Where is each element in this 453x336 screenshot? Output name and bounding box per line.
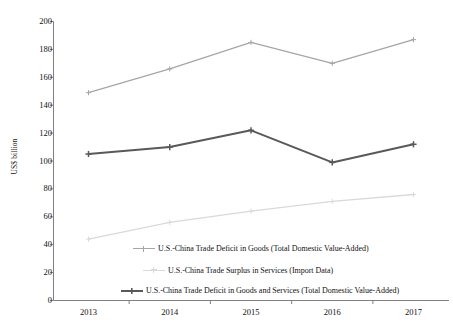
legend-swatch-icon xyxy=(133,244,155,253)
y-axis-tick-label: 140 xyxy=(26,101,52,110)
data-point-marker xyxy=(411,192,416,197)
data-point-marker xyxy=(248,209,253,214)
data-point-marker xyxy=(86,90,91,95)
data-point-marker xyxy=(85,151,91,157)
data-point-marker xyxy=(248,40,253,45)
legend-label: U.S.-China Trade Surplus in Services (Im… xyxy=(168,266,333,275)
data-point-marker xyxy=(410,141,416,147)
data-point-marker xyxy=(329,159,335,165)
data-point-marker xyxy=(330,199,335,204)
legend-label: U.S.-China Trade Deficit in Goods (Total… xyxy=(158,244,369,253)
legend-swatch-icon xyxy=(143,266,165,275)
y-axis-tick-label: 180 xyxy=(26,45,52,54)
data-point-marker xyxy=(167,66,172,71)
y-axis-tick-label: 80 xyxy=(26,184,52,193)
line-chart: US$ billion 200180160140120100806040200 … xyxy=(0,0,453,336)
y-axis-title: US$ billion xyxy=(10,122,19,192)
axis-ticks xyxy=(50,22,453,305)
y-axis-tick-label: 40 xyxy=(26,240,52,249)
series-line xyxy=(89,40,414,93)
series-1 xyxy=(86,37,416,95)
series-line xyxy=(89,194,414,239)
data-point-marker xyxy=(86,237,91,242)
data-point-marker xyxy=(167,220,172,225)
y-axis-tick-label: 20 xyxy=(26,268,52,277)
y-axis-tick-label: 0 xyxy=(26,296,52,305)
legend-item-2[interactable]: U.S.-China Trade Surplus in Services (Im… xyxy=(143,266,333,275)
series-layer xyxy=(85,37,416,242)
data-point-marker xyxy=(167,144,173,150)
data-point-marker xyxy=(330,61,335,66)
data-point-marker xyxy=(248,127,254,133)
legend-swatch-icon xyxy=(121,286,143,295)
data-point-marker xyxy=(411,37,416,42)
y-axis-tick-labels: 200180160140120100806040200 xyxy=(22,0,52,336)
y-axis-tick-label: 160 xyxy=(26,73,52,82)
legend-item-1[interactable]: U.S.-China Trade Deficit in Goods (Total… xyxy=(133,244,369,253)
y-axis-tick-label: 100 xyxy=(26,157,52,166)
y-axis-tick-label: 60 xyxy=(26,212,52,221)
series-line xyxy=(89,130,414,162)
legend-label: U.S.-China Trade Deficit in Goods and Se… xyxy=(146,286,399,295)
axis-lines xyxy=(54,22,450,301)
y-axis-tick-label: 120 xyxy=(26,129,52,138)
series-3 xyxy=(85,127,416,165)
y-axis-tick-label: 200 xyxy=(26,17,52,26)
legend-item-3[interactable]: U.S.-China Trade Deficit in Goods and Se… xyxy=(121,286,399,295)
series-2 xyxy=(86,192,416,242)
